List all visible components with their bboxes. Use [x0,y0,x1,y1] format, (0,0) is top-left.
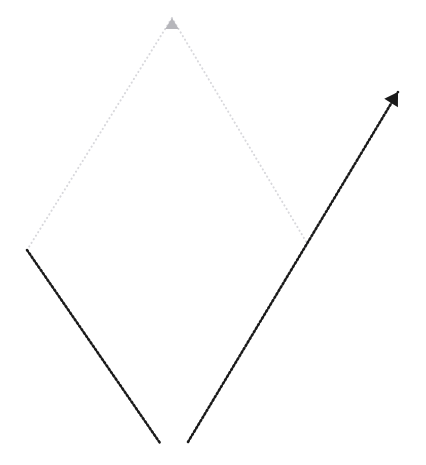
dotted-path-figure [0,0,426,465]
canvas-background [0,0,426,465]
figure-canvas [0,0,426,465]
